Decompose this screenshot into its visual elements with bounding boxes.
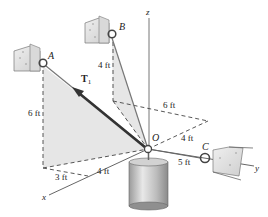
dim-oc-length: 5 ft [178,157,191,167]
dim-b-height: 4 ft [98,60,111,70]
point-O-ring [145,146,152,153]
cylinder-weight [129,152,168,210]
dim-o-to-yline: 4 ft [181,133,194,143]
cable-OC [148,149,200,158]
x-axis-label: x [41,192,46,202]
dim-a-height: 6 ft [28,108,41,118]
force-T1-label: T1 [81,73,92,86]
statics-diagram: z x y T1 O A [0,0,268,217]
point-O-label: O [152,132,159,143]
point-A-label: A [47,50,55,61]
point-C-label: C [202,141,209,152]
dim-x-3ft: 3 ft [55,172,68,182]
support-bracket-C [213,147,253,180]
dim-x-4ft: 4 ft [97,166,110,176]
y-axis-label: y [254,163,259,173]
z-axis-label: z [145,7,150,17]
support-block-A [14,44,40,71]
dim-b-to-yline: 6 ft [163,100,176,110]
point-B-label: B [119,21,125,32]
support-block-B [85,16,109,43]
